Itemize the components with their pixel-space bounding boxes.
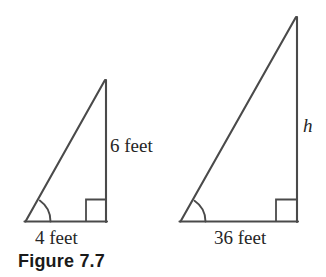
small-right-triangle bbox=[25, 80, 108, 222]
large-triangle-base-label: 36 feet bbox=[214, 228, 266, 247]
large-triangle-right-angle-square bbox=[276, 200, 297, 222]
small-triangle-angle-arc bbox=[40, 201, 51, 222]
small-triangle-base-label: 4 feet bbox=[35, 228, 78, 247]
small-triangle-height-label: 6 feet bbox=[110, 136, 153, 155]
large-right-triangle bbox=[180, 17, 299, 222]
figure-container: 6 feet 4 feet h 36 feet Figure 7.7 bbox=[0, 0, 326, 277]
small-triangle-right-angle-square bbox=[86, 200, 106, 222]
large-triangle-angle-arc bbox=[195, 201, 206, 222]
figure-caption: Figure 7.7 bbox=[18, 252, 105, 270]
large-triangle-hypotenuse bbox=[181, 17, 297, 222]
large-triangle-height-label: h bbox=[303, 116, 313, 135]
